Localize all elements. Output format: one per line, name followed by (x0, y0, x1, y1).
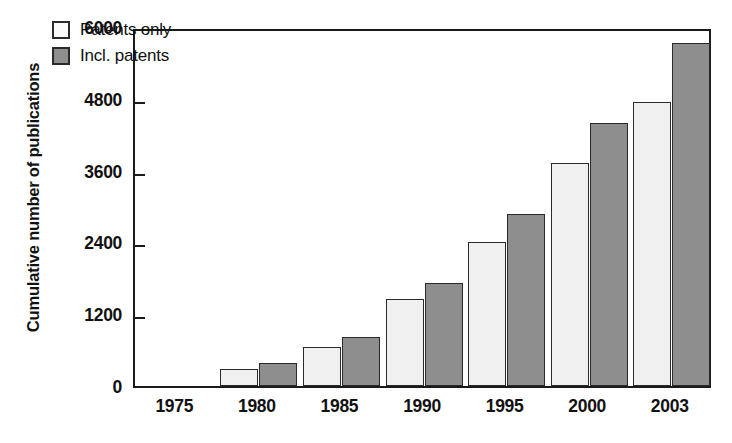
legend-swatch-icon (52, 47, 70, 65)
legend-item: Patents only (52, 17, 171, 43)
bar-group (220, 31, 297, 386)
bar-1990-patents-only[interactable] (386, 299, 424, 386)
legend-label: Patents only (80, 20, 171, 40)
bar-1990-incl-patents[interactable] (425, 283, 463, 386)
bar-2003-incl-patents[interactable] (672, 43, 710, 386)
bar-1985-patents-only[interactable] (303, 347, 341, 386)
x-axis-tick-label: 2003 (651, 396, 689, 417)
bar-1995-patents-only[interactable] (468, 242, 506, 386)
bar-chart-figure: Cumulative number of publications 012002… (0, 0, 732, 443)
bar-1995-incl-patents[interactable] (507, 214, 545, 386)
y-axis-tick-label: 3600 (50, 164, 122, 182)
bar-2003-patents-only[interactable] (633, 102, 671, 386)
bar-1980-patents-only[interactable] (220, 369, 258, 386)
bar-group (138, 31, 215, 386)
legend-swatch-icon (52, 21, 70, 39)
y-axis-tick-label: 2400 (50, 235, 122, 253)
x-axis-tick-label: 1990 (403, 396, 441, 417)
x-axis-tick-label: 1995 (486, 396, 524, 417)
x-axis-tick-label: 1985 (321, 396, 359, 417)
bar-group (386, 31, 463, 386)
bar-group (303, 31, 380, 386)
y-axis-title: Cumulative number of publications (24, 28, 43, 368)
x-axis-tick-label: 2000 (568, 396, 606, 417)
x-axis-tick-label: 1975 (155, 396, 193, 417)
plot-inner (135, 31, 709, 386)
bar-group (551, 31, 628, 386)
bar-group (468, 31, 545, 386)
bar-1980-incl-patents[interactable] (259, 363, 297, 386)
y-axis-tick-label: 0 (50, 379, 122, 397)
bar-2000-incl-patents[interactable] (590, 123, 628, 386)
bar-1985-incl-patents[interactable] (342, 337, 380, 386)
legend-item: Incl. patents (52, 43, 171, 69)
x-axis-tick-label: 1980 (238, 396, 276, 417)
chart-legend: Patents onlyIncl. patents (52, 17, 171, 69)
y-axis-tick-label: 4800 (50, 92, 122, 110)
x-axis-tick-labels: 1975198019851990199520002003 (133, 396, 711, 426)
y-axis-tick-label: 1200 (50, 307, 122, 325)
bar-group (633, 31, 710, 386)
bar-2000-patents-only[interactable] (551, 163, 589, 386)
plot-area (133, 29, 711, 388)
legend-label: Incl. patents (80, 46, 169, 66)
